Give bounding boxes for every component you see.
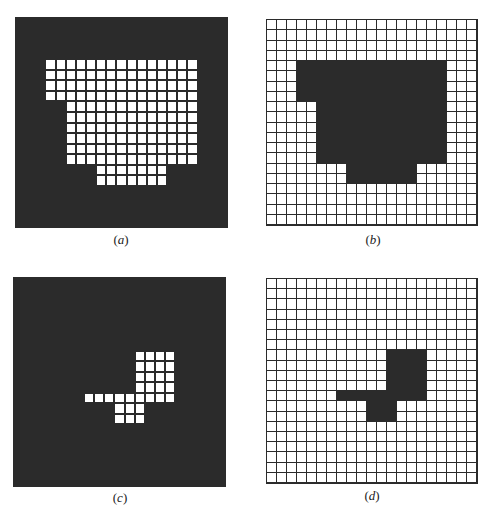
background-cell xyxy=(467,371,477,381)
background-cell xyxy=(56,207,66,218)
background-cell xyxy=(417,174,427,184)
background-cell xyxy=(277,184,287,194)
shape-cell xyxy=(127,123,137,134)
shape-cell xyxy=(86,70,96,81)
panel-label-c: (c) xyxy=(100,490,140,506)
background-cell xyxy=(427,20,437,30)
background-cell xyxy=(54,361,64,372)
background-cell xyxy=(175,319,185,330)
background-cell xyxy=(417,401,427,411)
background-cell xyxy=(317,381,327,391)
shape-cell xyxy=(116,101,126,112)
background-cell xyxy=(23,319,33,330)
background-cell xyxy=(86,207,96,218)
background-cell xyxy=(167,28,177,39)
shape-cell xyxy=(317,82,327,92)
background-cell xyxy=(56,175,66,186)
background-cell xyxy=(135,319,145,330)
background-cell xyxy=(167,175,177,186)
background-cell xyxy=(208,196,218,207)
shape-cell xyxy=(106,165,116,176)
background-cell xyxy=(116,196,126,207)
background-cell xyxy=(427,381,437,391)
background-cell xyxy=(267,51,277,61)
background-cell xyxy=(216,298,226,309)
background-cell xyxy=(317,452,327,462)
shape-cell xyxy=(387,143,397,153)
panel-label-d: (d) xyxy=(352,488,392,504)
background-cell xyxy=(25,101,35,112)
shape-cell xyxy=(116,144,126,155)
background-cell xyxy=(337,20,347,30)
shape-cell xyxy=(157,144,167,155)
background-cell xyxy=(216,288,226,299)
background-cell xyxy=(457,463,467,473)
background-cell xyxy=(125,319,135,330)
background-cell xyxy=(114,435,124,446)
background-cell xyxy=(327,205,337,215)
shape-cell xyxy=(137,133,147,144)
background-cell xyxy=(317,473,327,483)
background-cell xyxy=(74,319,84,330)
background-cell xyxy=(307,350,317,360)
background-cell xyxy=(367,194,377,204)
background-cell xyxy=(185,393,195,404)
background-cell xyxy=(54,330,64,341)
background-cell xyxy=(367,422,377,432)
background-cell xyxy=(367,442,377,452)
shape-cell xyxy=(317,112,327,122)
background-cell xyxy=(218,217,228,228)
shape-cell xyxy=(367,143,377,153)
background-cell xyxy=(467,71,477,81)
background-cell xyxy=(157,217,167,228)
background-cell xyxy=(377,432,387,442)
shape-cell xyxy=(357,112,367,122)
background-cell xyxy=(267,41,277,51)
background-cell xyxy=(467,184,477,194)
background-cell xyxy=(317,320,327,330)
background-cell xyxy=(347,422,357,432)
shape-cell xyxy=(76,133,86,144)
background-cell xyxy=(86,17,96,28)
background-cell xyxy=(147,17,157,28)
shape-cell xyxy=(367,71,377,81)
background-cell xyxy=(417,320,427,330)
background-cell xyxy=(357,422,367,432)
background-cell xyxy=(297,452,307,462)
background-cell xyxy=(25,175,35,186)
background-cell xyxy=(76,217,86,228)
background-cell xyxy=(114,372,124,383)
background-cell xyxy=(23,435,33,446)
background-cell xyxy=(116,207,126,218)
background-cell xyxy=(287,143,297,153)
background-cell xyxy=(337,41,347,51)
background-cell xyxy=(35,123,45,134)
background-cell xyxy=(125,351,135,362)
background-cell xyxy=(45,38,55,49)
shape-cell xyxy=(137,80,147,91)
background-cell xyxy=(287,92,297,102)
shape-cell xyxy=(157,59,167,70)
shape-cell xyxy=(367,401,377,411)
background-cell xyxy=(25,91,35,102)
background-cell xyxy=(216,330,226,341)
background-cell xyxy=(145,445,155,456)
background-cell xyxy=(467,401,477,411)
background-cell xyxy=(377,473,387,483)
background-cell xyxy=(307,463,317,473)
background-cell xyxy=(357,330,367,340)
background-cell xyxy=(287,279,297,289)
shape-cell xyxy=(337,143,347,153)
shape-cell xyxy=(147,133,157,144)
background-cell xyxy=(208,80,218,91)
background-cell xyxy=(347,279,357,289)
background-cell xyxy=(407,20,417,30)
background-cell xyxy=(43,435,53,446)
background-cell xyxy=(35,59,45,70)
background-cell xyxy=(467,194,477,204)
background-cell xyxy=(157,38,167,49)
background-cell xyxy=(277,41,287,51)
background-cell xyxy=(206,372,216,383)
background-cell xyxy=(175,277,185,288)
background-cell xyxy=(76,49,86,60)
